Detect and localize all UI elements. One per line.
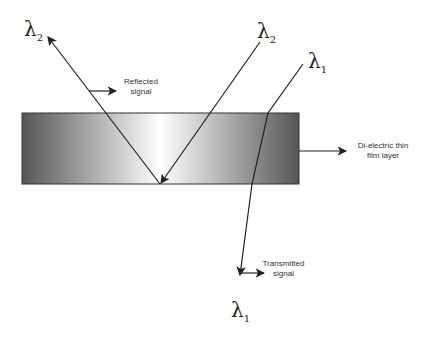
lambda2-reflected-label: λ2 <box>24 17 43 43</box>
diagram-canvas <box>0 0 426 339</box>
lambda1-incident-label: λ1 <box>308 49 327 75</box>
thin-film-layer <box>22 113 299 184</box>
lambda1-transmitted-label: λ1 <box>231 298 250 324</box>
lambda2-incident-label: λ2 <box>257 19 276 45</box>
transmitted-signal-label: Transmittedsignal <box>256 259 311 279</box>
reflected-signal-label: Reflectedsignal <box>116 77 166 97</box>
film-layer-label: Di-electric thinfilm layer <box>348 141 418 161</box>
